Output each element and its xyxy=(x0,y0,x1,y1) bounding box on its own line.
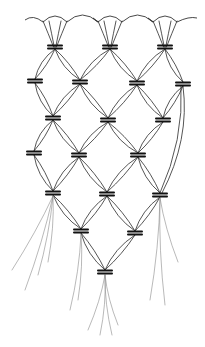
macrame-net-diagram xyxy=(0,0,205,347)
net-drawing xyxy=(0,0,205,347)
hanging-tassels xyxy=(12,196,178,335)
net-strands xyxy=(34,21,184,270)
